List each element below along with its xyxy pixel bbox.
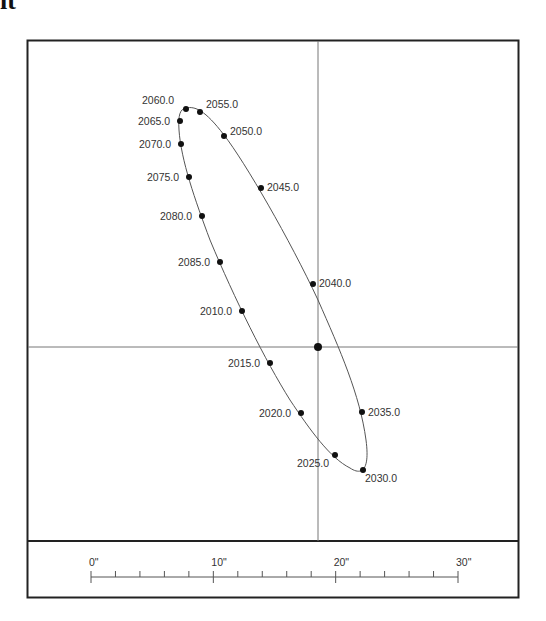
epoch-point [217,259,223,265]
epoch-point [177,118,183,124]
epoch-label: 2010.0 [200,305,232,317]
epoch-label: 2080.0 [160,210,192,222]
epoch-label: 2075.0 [147,171,179,183]
epoch-point [298,410,304,416]
primary-star-marker [314,343,322,351]
epoch-label: 2015.0 [228,357,260,369]
scale-bar: 0"10"20"30" [89,556,472,583]
epoch-point [186,174,192,180]
epoch-label: 2065.0 [138,115,170,127]
epoch-label: 2020.0 [259,407,291,419]
epoch-label: 2070.0 [139,138,171,150]
epoch-point [183,106,189,112]
epoch-label: 2045.0 [267,181,299,193]
epoch-point [310,281,316,287]
scale-tick-label: 10" [211,556,227,568]
epoch-point [178,141,184,147]
epoch-point [359,409,365,415]
scale-tick-label: 20" [334,556,350,568]
epoch-point [197,109,203,115]
epoch-label: 2040.0 [319,277,351,289]
epoch-point [258,185,264,191]
epoch-point [221,133,227,139]
scale-tick-label: 0" [89,556,99,568]
orbit-diagram: 2010.02015.02020.02025.02030.02035.02040… [0,0,546,621]
plot-frame [28,41,519,598]
epoch-label: 2060.0 [142,94,174,106]
epoch-label: 2030.0 [365,472,397,484]
epoch-point [332,452,338,458]
epoch-points: 2010.02015.02020.02025.02030.02035.02040… [138,94,400,484]
epoch-label: 2025.0 [297,457,329,469]
epoch-label: 2055.0 [206,98,238,110]
epoch-label: 2035.0 [368,406,400,418]
epoch-point [267,360,273,366]
scale-tick-label: 30" [456,556,472,568]
epoch-point [239,308,245,314]
epoch-label: 2050.0 [230,125,262,137]
epoch-point [199,213,205,219]
epoch-label: 2085.0 [178,256,210,268]
